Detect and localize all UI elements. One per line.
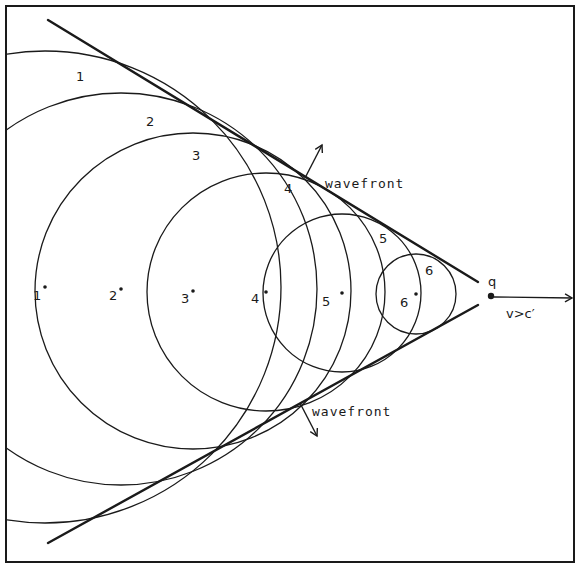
emission-circles <box>0 51 456 523</box>
particle-dot <box>488 293 494 299</box>
center-label-6: 6 <box>400 295 408 310</box>
center-label-4: 4 <box>251 291 259 306</box>
emission-point-4 <box>264 290 268 294</box>
center-label-5: 5 <box>322 294 330 309</box>
wavefront-normal-arrow-upper <box>305 145 322 178</box>
arc-label-6: 6 <box>425 263 433 278</box>
arc-label-2: 2 <box>146 114 154 129</box>
velocity-label: v>c′ <box>506 306 535 321</box>
emission-circle-2 <box>0 93 317 485</box>
arc-label-3: 3 <box>192 148 200 163</box>
cherenkov-diagram: wavefrontwavefront 112233445566 qv>c′ <box>0 0 582 568</box>
emission-point-6 <box>414 292 418 296</box>
wavefront-label-lower: wavefront <box>312 404 391 419</box>
emission-point-2 <box>119 287 123 291</box>
emission-point-1 <box>43 285 47 289</box>
wavefront-lines: wavefrontwavefront <box>48 20 478 543</box>
wavefront-label-upper: wavefront <box>325 176 404 191</box>
velocity-arrow <box>494 297 572 298</box>
particle-q: qv>c′ <box>488 274 572 321</box>
wavefront-line-lower <box>48 305 478 543</box>
emission-point-5 <box>340 291 344 295</box>
center-label-2: 2 <box>109 288 117 303</box>
center-label-1: 1 <box>33 288 41 303</box>
wavefront-line-upper <box>48 20 478 282</box>
center-label-3: 3 <box>181 291 189 306</box>
arc-label-4: 4 <box>284 181 292 196</box>
emission-point-3 <box>191 289 195 293</box>
emission-circle-1 <box>0 51 281 523</box>
particle-label: q <box>488 274 496 289</box>
arc-label-5: 5 <box>379 231 387 246</box>
arc-label-1: 1 <box>76 69 84 84</box>
